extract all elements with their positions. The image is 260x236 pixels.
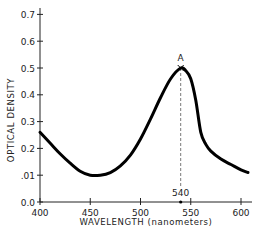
peak-wavelength-dot [179,200,182,203]
peak-wavelength-label: 540 [172,188,189,198]
x-tick-label: 400 [31,208,48,218]
x-tick-label: 600 [232,208,249,218]
y-tick-label: 0.0 [21,198,36,208]
y-tick-label: .01 [21,171,35,181]
peak-label-a: A [178,53,185,63]
x-axis-title: WAVELENGTH (nanometers) [79,217,212,227]
spectrum-curve [40,68,248,176]
y-tick-label: 0.7 [21,10,35,20]
y-axis-title: OPTICAL DENSITY [6,78,16,162]
y-tick-label: 0.5 [21,64,35,74]
x-ticks: 400450500550600 [31,198,249,218]
y-tick-label: 0.6 [21,37,36,47]
y-tick-label: 0.2 [21,144,35,154]
y-tick-label: 0.3 [21,117,35,127]
absorption-spectrum-chart: 0.0.010.20.30.40.50.60.7 400450500550600… [0,0,260,236]
y-tick-label: 0.4 [21,90,36,100]
